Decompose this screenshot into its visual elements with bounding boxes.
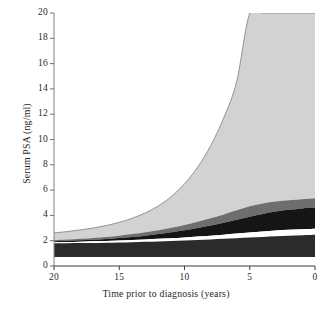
y-axis-tick-label: 16 [20, 59, 48, 69]
x-axis-tick-label: 15 [104, 273, 134, 283]
x-axis-tick-label: 10 [170, 273, 200, 283]
y-axis-tick-label: 0 [20, 261, 48, 271]
y-axis-tick-label: 20 [20, 8, 48, 18]
x-axis-ticks [54, 266, 315, 270]
y-axis-title: Serum PSA (ng/ml) [21, 69, 32, 219]
chart-figure: 02468101214161820 20151050 Serum PSA (ng… [0, 0, 332, 309]
x-axis-title: Time prior to diagnosis (years) [0, 288, 332, 299]
x-axis-tick-label: 0 [300, 273, 330, 283]
x-axis-tick-label: 20 [39, 273, 69, 283]
y-axis-tick-label: 18 [20, 33, 48, 43]
y-axis-tick-label: 2 [20, 236, 48, 246]
x-axis-tick-label: 5 [235, 273, 265, 283]
y-axis-ticks [50, 13, 54, 266]
chart-plot-area [0, 0, 332, 309]
